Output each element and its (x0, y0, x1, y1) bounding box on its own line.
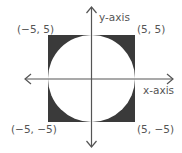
corner-label-top-right: (5, 5) (137, 23, 165, 35)
corner-label-top-left: (−5, 5) (17, 23, 54, 35)
y-axis-label: y-axis (99, 11, 130, 23)
corner-label-bottom-right: (5, −5) (137, 123, 174, 135)
x-axis-label: x-axis (143, 84, 174, 96)
corner-label-bottom-left: (−5, −5) (11, 123, 57, 135)
